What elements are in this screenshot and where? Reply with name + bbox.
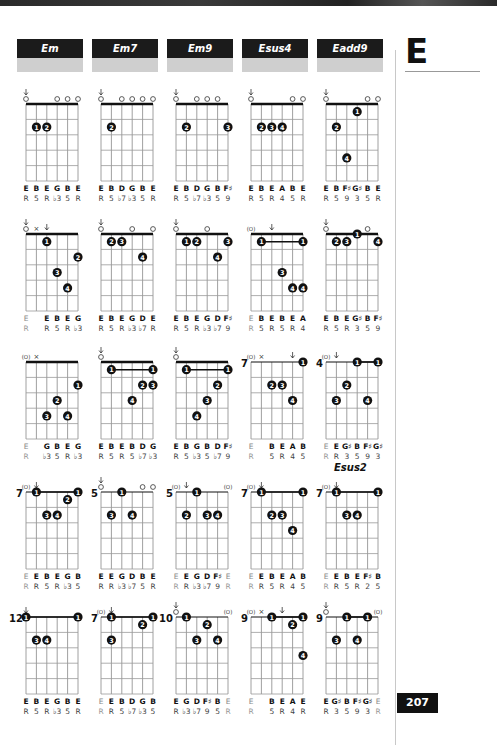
svg-text:R: R [173,582,178,591]
chord-diagram: ×1234EEBEGRR5R♭3 [23,219,82,333]
svg-text:B: B [334,184,340,193]
svg-text:5: 5 [259,324,264,333]
svg-text:4: 4 [355,637,360,645]
svg-text:1: 1 [24,614,29,622]
svg-text:A: A [290,697,296,706]
svg-text:♭7: ♭7 [203,582,212,591]
chord-diagram: 1234EBEG♯BF♯R5R359 [323,219,382,333]
svg-text:♭3: ♭3 [193,582,202,591]
svg-text:D: D [139,442,145,451]
svg-text:E: E [65,314,70,323]
svg-text:2: 2 [109,238,114,246]
svg-text:R: R [109,707,114,716]
svg-text:R: R [280,452,285,461]
svg-text:5: 5 [259,194,264,203]
svg-text:F♯: F♯ [213,572,222,581]
svg-text:F♯: F♯ [353,697,362,706]
svg-text:R: R [323,582,328,591]
svg-text:9: 9 [365,452,370,461]
chord-diagram: 7(O)1134EEBEF♯BRR5R25 [316,482,383,591]
svg-text:3: 3 [334,397,339,405]
svg-text:B: B [184,442,190,451]
svg-text:E: E [280,697,285,706]
svg-text:B: B [334,314,340,323]
svg-text:R: R [184,582,189,591]
svg-text:1: 1 [76,382,81,390]
svg-text:B: B [34,697,40,706]
svg-text:4: 4 [65,413,70,421]
svg-text:4: 4 [65,285,70,293]
svg-text:5: 5 [344,707,349,716]
svg-text:4: 4 [130,397,135,405]
svg-text:B: B [54,442,60,451]
svg-text:B: B [269,442,275,451]
svg-text:E: E [75,184,80,193]
svg-text:1: 1 [355,108,360,116]
svg-text:4: 4 [130,512,135,520]
svg-text:3: 3 [55,269,60,277]
svg-text:G♯: G♯ [363,697,373,706]
svg-text:E: E [34,572,39,581]
svg-text:5: 5 [205,452,210,461]
svg-text:9: 9 [205,707,210,716]
svg-text:3: 3 [365,707,370,716]
svg-text:R: R [150,582,155,591]
svg-text:D: D [204,572,210,581]
svg-text:R: R [323,452,328,461]
svg-text:2: 2 [334,124,339,132]
svg-text:E: E [119,314,124,323]
svg-text:♭3: ♭3 [53,707,62,716]
svg-text:E: E [109,697,114,706]
svg-text:4: 4 [365,397,370,405]
svg-text:B: B [150,697,156,706]
svg-text:G: G [183,697,189,706]
svg-text:♭3: ♭3 [182,707,191,716]
chord-diagram: 234EBEABER5R45R [248,89,305,203]
svg-text:1: 1 [355,359,360,367]
svg-text:E: E [44,184,49,193]
svg-text:2: 2 [290,621,295,629]
svg-text:4: 4 [215,254,220,262]
svg-text:B: B [344,697,350,706]
svg-text:R: R [344,324,349,333]
svg-text:5: 5 [76,582,81,591]
svg-text:(O): (O) [172,484,181,490]
svg-text:3: 3 [205,397,210,405]
svg-text:5: 5 [119,707,124,716]
svg-text:G: G [54,697,60,706]
svg-text:R: R [269,324,274,333]
svg-text:2: 2 [55,397,60,405]
svg-text:E: E [324,442,329,451]
svg-text:1: 1 [376,359,381,367]
svg-text:1: 1 [45,238,50,246]
svg-text:R: R [334,452,339,461]
svg-text:2: 2 [270,512,275,520]
svg-text:G: G [140,697,146,706]
svg-text:1: 1 [76,614,81,622]
svg-text:B: B [204,442,210,451]
svg-text:R: R [323,324,328,333]
svg-text:D: D [129,697,135,706]
svg-text:R: R [44,324,49,333]
svg-text:1: 1 [301,614,306,622]
svg-text:5: 5 [184,452,189,461]
chord-diagram: 7(O)11234EEBEABRR5R45 [241,482,308,591]
svg-text:(O): (O) [22,354,31,360]
svg-text:E: E [173,184,178,193]
svg-text:♭7: ♭7 [138,452,147,461]
chord-diagram: 12EBEGBER5R♭35R [23,89,80,203]
svg-text:R: R [375,707,380,716]
svg-text:B: B [65,697,71,706]
svg-text:A: A [290,442,296,451]
svg-text:E: E [269,314,274,323]
svg-text:3: 3 [205,512,210,520]
svg-text:♭3: ♭3 [203,324,212,333]
svg-text:5: 5 [91,488,98,499]
svg-text:R: R [23,582,28,591]
svg-text:E: E [226,697,231,706]
svg-text:♭3: ♭3 [138,707,147,716]
svg-text:1: 1 [376,489,381,497]
svg-text:E: E [344,314,349,323]
svg-text:R: R [98,194,103,203]
svg-text:E: E [23,184,28,193]
